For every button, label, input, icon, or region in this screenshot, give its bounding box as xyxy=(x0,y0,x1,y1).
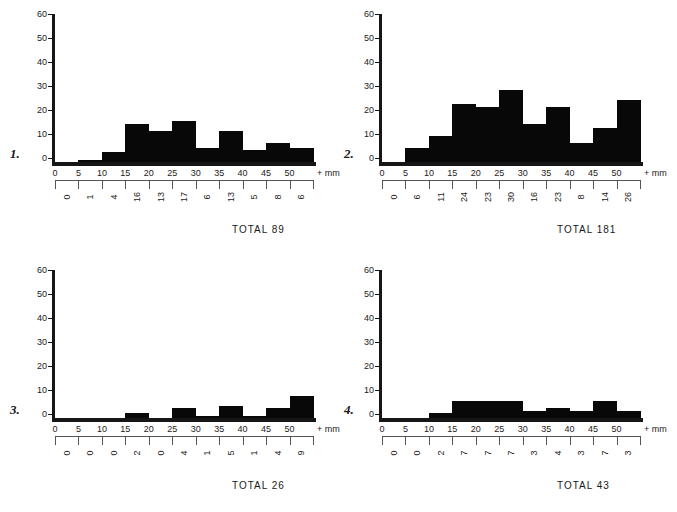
y-axis-tick-label: 60 xyxy=(364,9,374,19)
x-axis-tick-label: 25 xyxy=(167,424,177,434)
ruler-tick xyxy=(55,436,56,445)
y-axis-tick xyxy=(48,294,53,295)
bin-count-label: 4 xyxy=(273,444,283,462)
y-axis-tick-label: 10 xyxy=(37,385,47,395)
plot-area-4: 0102030405060 05101520253035404550+ mm xyxy=(379,270,643,422)
bin-count-label: 0 xyxy=(62,444,72,462)
x-axis-line xyxy=(52,418,316,422)
ruler-tick xyxy=(476,436,477,445)
x-axis-unit-label: + mm xyxy=(317,424,340,434)
ruler-tick xyxy=(382,180,383,189)
x-axis-tick-label: 25 xyxy=(494,424,504,434)
ruler-tick xyxy=(452,436,453,445)
bin-count-label: 16 xyxy=(132,188,142,206)
ruler-tick xyxy=(196,436,197,445)
bin-count-label: 17 xyxy=(179,188,189,206)
bin-count-label: 6 xyxy=(412,188,422,206)
bar-series-3 xyxy=(55,274,313,418)
x-axis-tick-label: 50 xyxy=(612,424,622,434)
bin-count-label: 30 xyxy=(506,188,516,206)
bin-count-label: 1 xyxy=(202,444,212,462)
total-label: TOTAL 89 xyxy=(232,224,285,235)
y-axis-tick xyxy=(375,38,380,39)
bin-count-label: 1 xyxy=(249,444,259,462)
histogram-panel-4: 4. 0102030405060 05101520253035404550+ m… xyxy=(339,256,677,512)
ruler-tick xyxy=(617,436,618,445)
y-axis-tick xyxy=(48,366,53,367)
ruler-tick xyxy=(313,436,314,445)
panel-index-label: 1. xyxy=(10,146,20,162)
y-axis-tick xyxy=(375,110,380,111)
x-axis-tick-label: 35 xyxy=(214,168,224,178)
bin-count-label: 23 xyxy=(483,188,493,206)
histogram-bar xyxy=(452,104,476,162)
x-axis-tick-label: 40 xyxy=(238,424,248,434)
y-axis-tick-label: 30 xyxy=(364,81,374,91)
x-axis-tick-label: 30 xyxy=(191,424,201,434)
bin-count-label: 3 xyxy=(623,444,633,462)
histogram-bar xyxy=(290,396,314,418)
x-axis-line xyxy=(52,162,316,166)
histogram-bar xyxy=(523,124,547,162)
y-axis-tick-label: 0 xyxy=(369,153,374,163)
x-axis-tick-label: 20 xyxy=(144,168,154,178)
ruler-tick xyxy=(617,180,618,189)
ruler-tick xyxy=(196,180,197,189)
bin-count-label: 13 xyxy=(156,188,166,206)
bin-count-label: 5 xyxy=(226,444,236,462)
y-axis-tick xyxy=(48,38,53,39)
y-axis-tick-label: 50 xyxy=(37,289,47,299)
bin-count-label: 7 xyxy=(506,444,516,462)
y-axis-tick xyxy=(375,294,380,295)
histogram-bar xyxy=(593,401,617,418)
y-axis-tick xyxy=(48,158,53,159)
y-axis-tick xyxy=(48,86,53,87)
ruler-tick xyxy=(219,180,220,189)
y-axis-tick xyxy=(375,390,380,391)
histogram-bar xyxy=(429,136,453,162)
histogram-panel-1: 1. 0102030405060 05101520253035404550+ m… xyxy=(0,0,338,256)
y-axis-tick xyxy=(375,270,380,271)
histogram-bar xyxy=(499,90,523,162)
y-axis-tick xyxy=(48,390,53,391)
bin-count-label: 4 xyxy=(109,188,119,206)
y-axis-tick xyxy=(48,14,53,15)
y-axis-tick xyxy=(375,86,380,87)
y-axis-tick-label: 20 xyxy=(364,105,374,115)
bin-count-label: 0 xyxy=(85,444,95,462)
x-axis-tick-label: 5 xyxy=(76,168,81,178)
total-label: TOTAL 26 xyxy=(232,480,285,491)
x-axis-unit-label: + mm xyxy=(644,168,667,178)
y-axis-tick-label: 10 xyxy=(37,129,47,139)
histogram-panel-3: 3. 0102030405060 05101520253035404550+ m… xyxy=(0,256,338,512)
y-axis-tick-label: 10 xyxy=(364,129,374,139)
bin-count-label: 13 xyxy=(226,188,236,206)
x-axis-tick-label: 35 xyxy=(214,424,224,434)
y-axis-tick-label: 0 xyxy=(42,153,47,163)
y-axis-tick xyxy=(48,414,53,415)
y-axis-tick xyxy=(48,134,53,135)
bin-count-label: 26 xyxy=(623,188,633,206)
ruler-tick xyxy=(78,180,79,189)
histogram-bar xyxy=(546,408,570,418)
y-axis-tick xyxy=(375,158,380,159)
histogram-bar xyxy=(243,150,267,162)
x-axis-tick-label: 15 xyxy=(447,168,457,178)
y-axis-tick-label: 50 xyxy=(364,289,374,299)
x-axis-tick-label: 25 xyxy=(167,168,177,178)
x-axis-tick-label: 50 xyxy=(285,424,295,434)
x-axis-tick-label: 5 xyxy=(403,424,408,434)
y-axis-tick-label: 60 xyxy=(37,9,47,19)
bin-count-label: 6 xyxy=(202,188,212,206)
y-axis-tick-label: 50 xyxy=(37,33,47,43)
y-axis-tick-label: 50 xyxy=(364,33,374,43)
histogram-bar xyxy=(617,100,641,162)
histogram-bar xyxy=(219,406,243,418)
ruler-tick xyxy=(243,180,244,189)
bin-count-label: 0 xyxy=(109,444,119,462)
bin-count-label: 6 xyxy=(296,188,306,206)
x-axis-tick-label: 45 xyxy=(261,424,271,434)
ruler-tick xyxy=(382,436,383,445)
bin-count-label: 8 xyxy=(273,188,283,206)
ruler-tick xyxy=(570,436,571,445)
